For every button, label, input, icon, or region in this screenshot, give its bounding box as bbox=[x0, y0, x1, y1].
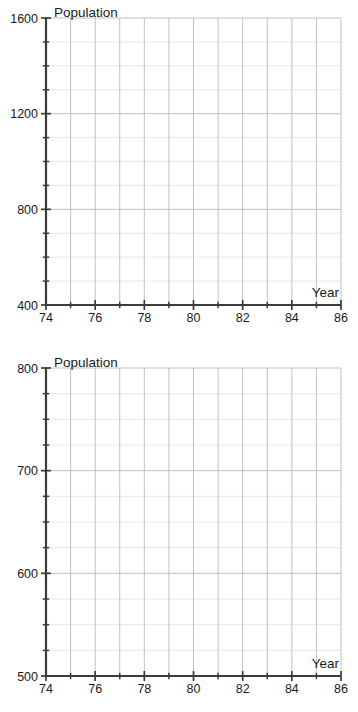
y-tick-label: 600 bbox=[17, 567, 38, 581]
x-tick-label: 80 bbox=[187, 311, 201, 325]
x-tick-label: 76 bbox=[88, 682, 102, 696]
x-tick-label: 74 bbox=[39, 682, 53, 696]
x-tick-label: 80 bbox=[187, 682, 201, 696]
x-tick-label: 82 bbox=[236, 682, 250, 696]
population-year-chart-bottom: 50060070080074767880828486 Population Ye… bbox=[0, 350, 358, 712]
x-tick-label: 86 bbox=[334, 682, 348, 696]
chart-top-tick-labels: 4008001200160074767880828486 bbox=[10, 12, 348, 326]
y-tick-label: 800 bbox=[17, 203, 38, 217]
population-year-chart-top: 4008001200160074767880828486 Population … bbox=[0, 0, 358, 340]
chart-bottom-canvas: 50060070080074767880828486 Population Ye… bbox=[0, 350, 358, 712]
chart-top-x-axis-title: Year bbox=[312, 285, 340, 300]
x-tick-label: 78 bbox=[137, 311, 151, 325]
y-tick-label: 700 bbox=[17, 464, 38, 478]
y-tick-label: 400 bbox=[17, 299, 38, 313]
chart-bottom-ticks bbox=[41, 368, 341, 681]
y-tick-label: 1600 bbox=[10, 12, 38, 26]
x-tick-label: 84 bbox=[285, 682, 299, 696]
x-tick-label: 84 bbox=[285, 311, 299, 325]
x-tick-label: 76 bbox=[88, 311, 102, 325]
x-tick-label: 86 bbox=[334, 311, 348, 325]
y-tick-label: 500 bbox=[17, 670, 38, 684]
y-tick-label: 800 bbox=[17, 362, 38, 376]
x-tick-label: 74 bbox=[39, 311, 53, 325]
chart-bottom-y-axis-title: Population bbox=[54, 355, 118, 370]
chart-bottom-tick-labels: 50060070080074767880828486 bbox=[17, 362, 348, 697]
x-tick-label: 82 bbox=[236, 311, 250, 325]
chart-top-ticks bbox=[41, 18, 341, 310]
y-tick-label: 1200 bbox=[10, 107, 38, 121]
chart-bottom-x-axis-title: Year bbox=[312, 656, 340, 671]
x-tick-label: 78 bbox=[137, 682, 151, 696]
chart-top-y-axis-title: Population bbox=[54, 5, 118, 20]
chart-top-canvas: 4008001200160074767880828486 Population … bbox=[0, 0, 358, 340]
